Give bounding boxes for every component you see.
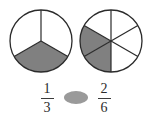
comparison-operator-blank[interactable] [64,91,88,104]
right-pie-label: two sixths shaded [79,73,80,74]
left-fraction-bar [41,98,54,99]
comparison-row: 1 3 2 6 [0,82,151,116]
left-pie-label: one third shaded [9,73,10,74]
right-fraction-bar [98,98,111,99]
right-fraction: 2 6 [98,82,111,115]
left-fraction: 1 3 [41,82,54,115]
right-fraction-denominator: 6 [99,100,110,115]
left-fraction-denominator: 3 [42,100,53,115]
right-fraction-numerator: 2 [99,82,110,97]
left-fraction-numerator: 1 [42,82,53,97]
fraction-comparison-worksheet: one third shaded two sixths shaded 1 3 2… [0,0,151,116]
left-pie-model: one third shaded [9,9,73,73]
right-pie-model: two sixths shaded [79,9,143,73]
left-pie-chart [9,9,73,73]
right-pie-chart [79,9,143,73]
